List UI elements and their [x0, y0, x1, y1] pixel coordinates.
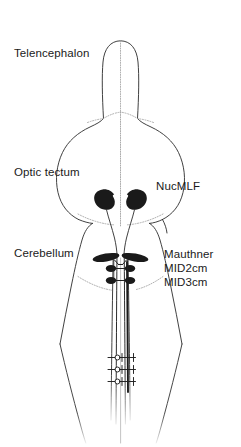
- label-mid3cm: MID3cm: [164, 276, 207, 290]
- electrode-icon-3: [108, 378, 136, 386]
- nucmlf-soma-right: [126, 189, 147, 210]
- mid2cm-soma-right: [125, 265, 135, 272]
- nucmlf-axon-right: [124, 210, 135, 255]
- mauthner-axon-left: [115, 260, 123, 265]
- nucmlf-cell-group: [94, 189, 147, 254]
- label-nucmlf: NucMLF: [156, 180, 200, 194]
- label-optic-tectum: Optic tectum: [14, 166, 80, 180]
- mid2cm-soma-left: [106, 265, 116, 272]
- mid3cm-soma-left: [106, 277, 116, 284]
- nucmlf-axon-left: [107, 210, 118, 255]
- label-cerebellum: Cerebellum: [14, 247, 74, 261]
- label-mid2cm: MID2cm: [164, 262, 207, 276]
- cerebellum-hindbrain-boundary-right: [135, 277, 163, 290]
- mauthner-axon-right: [119, 260, 127, 265]
- brain-diagram-figure: Telencephalon Optic tectum Cerebellum Nu…: [0, 0, 241, 447]
- nucmlf-soma-left: [94, 189, 115, 210]
- tectum-cerebellum-junction: [79, 220, 168, 234]
- label-mauthner: Mauthner: [164, 248, 213, 262]
- brain-schematic-svg: [0, 0, 241, 447]
- label-telencephalon: Telencephalon: [14, 47, 89, 61]
- mid3cm-soma-right: [125, 277, 135, 284]
